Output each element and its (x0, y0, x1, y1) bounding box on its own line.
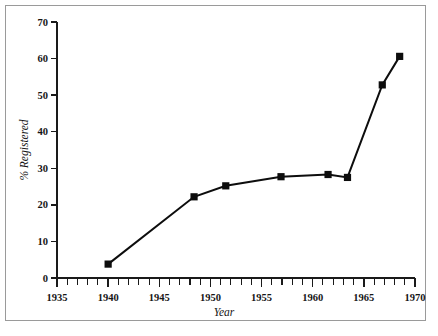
data-point-marker (379, 81, 386, 88)
x-tick-label: 1940 (98, 292, 119, 303)
y-tick-label: 30 (38, 163, 49, 174)
x-axis-tick-labels: 19351940194519501955196019651970 (47, 292, 426, 303)
data-point-marker (222, 182, 229, 189)
y-axis-ticks (51, 22, 57, 278)
data-point-marker (324, 171, 331, 178)
data-point-marker (190, 193, 197, 200)
y-tick-label: 70 (38, 17, 49, 28)
data-point-marker (277, 173, 284, 180)
y-axis-tick-labels: 010203040506070 (38, 17, 49, 284)
chart-figure: 010203040506070 193519401945195019551960… (0, 0, 438, 336)
y-tick-label: 10 (38, 236, 49, 247)
x-tick-label: 1965 (353, 292, 374, 303)
x-axis-label: Year (214, 306, 235, 318)
data-point-marker (105, 261, 112, 268)
data-point-marker (344, 174, 351, 181)
x-tick-label: 1960 (302, 292, 323, 303)
x-tick-label: 1955 (251, 292, 272, 303)
x-tick-label: 1945 (149, 292, 170, 303)
x-tick-label: 1970 (405, 292, 426, 303)
line-chart-plot: 010203040506070 193519401945195019551960… (0, 0, 438, 336)
y-tick-label: 40 (38, 126, 49, 137)
y-tick-label: 20 (38, 199, 49, 210)
data-point-markers (105, 53, 404, 268)
y-tick-label: 50 (38, 90, 49, 101)
y-tick-label: 0 (43, 273, 48, 284)
data-series-group (105, 53, 404, 268)
x-tick-label: 1950 (200, 292, 221, 303)
y-axis-label: % Registered (18, 119, 31, 180)
data-point-marker (396, 53, 403, 60)
data-line-path (108, 56, 400, 264)
x-axis-ticks (57, 278, 415, 287)
axes-group (57, 22, 415, 278)
x-tick-label: 1935 (47, 292, 68, 303)
y-tick-label: 60 (38, 53, 49, 64)
